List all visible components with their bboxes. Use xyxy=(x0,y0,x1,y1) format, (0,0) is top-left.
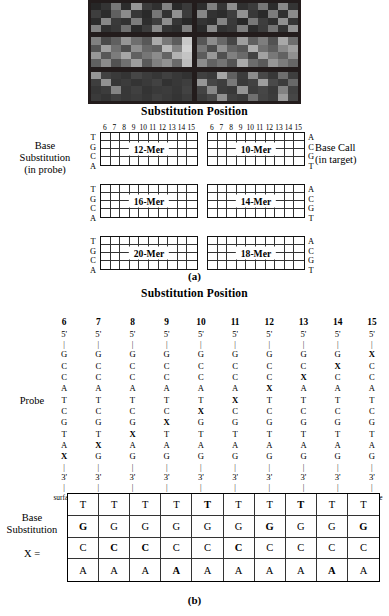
probe-column-10: 105'|GCCATXGTAG|3'|surface xyxy=(184,316,218,503)
grid-cell xyxy=(227,185,237,193)
bond-tick: | xyxy=(115,463,149,472)
grid-cell xyxy=(130,185,140,193)
array-cell xyxy=(182,25,192,32)
probe-base: C xyxy=(252,372,286,383)
grid-cell xyxy=(294,149,304,157)
probe-base: G xyxy=(355,451,389,462)
array-cell xyxy=(248,3,258,10)
array-cell xyxy=(258,45,268,52)
column-number: 14 xyxy=(177,123,187,132)
grid-cell xyxy=(218,193,228,201)
grid-cell xyxy=(208,253,218,261)
base-letter: T xyxy=(88,185,98,195)
probe-base: C xyxy=(150,361,184,372)
array-cell xyxy=(258,72,268,79)
array-cell xyxy=(217,45,227,52)
panel-bot-left xyxy=(91,72,192,101)
substitution-base-x: X xyxy=(184,406,218,417)
array-cell xyxy=(91,45,101,52)
grid-cell xyxy=(187,253,197,261)
array-cell xyxy=(121,3,131,10)
bond-tick: | xyxy=(115,340,149,349)
grid-cell xyxy=(168,237,178,245)
panel-b-letter: (b) xyxy=(0,594,389,606)
grid-cell xyxy=(120,157,130,165)
substitution-base-x: X xyxy=(321,361,355,372)
grid-cell xyxy=(168,141,178,149)
grid-cell xyxy=(285,253,295,261)
matrix-cell: A xyxy=(99,559,130,581)
array-cell xyxy=(217,79,227,86)
label-line: Substitution xyxy=(0,524,64,536)
bond-tick: | xyxy=(184,483,218,492)
array-cell xyxy=(131,18,141,25)
probe-base: C xyxy=(252,406,286,417)
array-cell xyxy=(288,3,298,10)
array-cell xyxy=(248,52,258,59)
array-cell xyxy=(227,59,237,66)
column-number: 6 xyxy=(100,123,110,132)
array-cell xyxy=(227,10,237,17)
array-cell xyxy=(237,79,247,86)
grid-cell xyxy=(237,209,247,217)
grid-18-mer: 18-Mer xyxy=(207,236,305,270)
bond-tick: | xyxy=(321,340,355,349)
probe-base: A xyxy=(286,383,320,394)
matrix-cell: A xyxy=(224,559,255,581)
three-prime-end: 3' xyxy=(115,472,149,483)
array-cell xyxy=(227,94,237,101)
probe-base: A xyxy=(321,383,355,394)
five-prime-end: 5' xyxy=(321,329,355,340)
grid-cell xyxy=(227,261,237,269)
array-cell xyxy=(121,25,131,32)
three-prime-end: 3' xyxy=(355,472,389,483)
array-cell xyxy=(142,37,152,44)
array-cell xyxy=(278,45,288,52)
base-letter: G xyxy=(88,195,98,205)
probe-base: C xyxy=(286,361,320,372)
grid-cell xyxy=(237,185,247,193)
base-substitution-label-b: Base Substitution xyxy=(0,512,64,536)
substitution-base-x: X xyxy=(252,383,286,394)
grid-cell xyxy=(256,185,266,193)
grid-cell xyxy=(275,141,285,149)
grid-cell xyxy=(256,237,266,245)
array-cell xyxy=(152,3,162,10)
probe-base: G xyxy=(355,417,389,428)
three-prime-end: 3' xyxy=(286,472,320,483)
grid-cell xyxy=(178,253,188,261)
column-number: 8 xyxy=(119,123,129,132)
grid-16-mer: 16-Mer xyxy=(100,184,198,218)
probe-base: T xyxy=(355,429,389,440)
grid-10-mer-label: 10-Mer xyxy=(236,143,276,156)
grid-cell xyxy=(111,141,121,149)
matrix-cell: C xyxy=(161,538,192,560)
base-letter: A xyxy=(88,214,98,224)
bond-tick: | xyxy=(321,463,355,472)
array-cell xyxy=(258,10,268,17)
array-cell xyxy=(278,72,288,79)
array-cell xyxy=(248,86,258,93)
probe-base: T xyxy=(252,395,286,406)
array-cell xyxy=(111,72,121,79)
grid-cell xyxy=(149,209,159,217)
array-cell xyxy=(111,45,121,52)
array-cell xyxy=(131,45,141,52)
probe-base: A xyxy=(286,440,320,451)
grid-cell xyxy=(120,185,130,193)
base-letter: G xyxy=(306,204,316,214)
probe-base: G xyxy=(115,349,149,360)
array-cell xyxy=(237,86,247,93)
probe-base: T xyxy=(252,429,286,440)
grid-cell xyxy=(208,201,218,209)
column-numbers: 6789101112131415 xyxy=(100,123,196,132)
probe-base: G xyxy=(286,417,320,428)
array-cell xyxy=(162,86,172,93)
array-cell xyxy=(258,3,268,10)
grid-cell xyxy=(275,157,285,165)
three-prime-end: 3' xyxy=(81,472,115,483)
probe-base: A xyxy=(355,440,389,451)
array-cell xyxy=(278,86,288,93)
array-cell xyxy=(237,18,247,25)
grid-cell xyxy=(178,201,188,209)
